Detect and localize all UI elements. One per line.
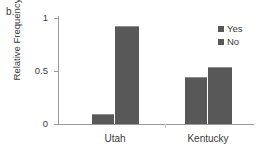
y-axis-line — [58, 16, 59, 125]
y-tick-mark-0: 0 — [54, 124, 58, 125]
legend-swatch-yes-icon — [218, 26, 224, 32]
bar-kentucky-no — [208, 67, 232, 124]
y-tick-mark-0point5: 0.5 — [54, 71, 58, 72]
y-tick-label-1: 1 — [43, 13, 48, 23]
legend-item-no: No — [218, 36, 243, 48]
bar-utah-no — [115, 26, 139, 124]
y-tick-mark-1: 1 — [54, 18, 58, 19]
legend-label-no: No — [227, 37, 239, 47]
bar-kentucky-yes — [185, 77, 207, 124]
legend-label-yes: Yes — [227, 24, 243, 34]
y-tick-label-0point5: 0.5 — [35, 66, 48, 76]
chart-figure: b. Relative Frequency 1 0.5 0 Utah Kentu… — [0, 0, 266, 152]
legend-swatch-no-icon — [218, 39, 224, 45]
legend-item-yes: Yes — [218, 23, 243, 35]
x-axis-line — [58, 124, 254, 125]
x-group-label-utah: Utah — [104, 134, 125, 144]
chart-legend: Yes No — [218, 23, 243, 49]
x-group-label-kentucky: Kentucky — [187, 134, 228, 144]
y-axis-title: Relative Frequency — [11, 0, 22, 87]
y-tick-label-0: 0 — [43, 119, 48, 129]
bar-utah-yes — [92, 114, 114, 124]
x-tick-mark-group-separator — [165, 124, 166, 128]
